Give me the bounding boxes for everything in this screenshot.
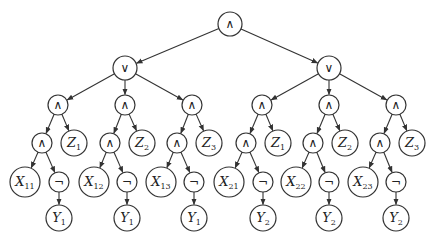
tree-node-n13: ¬ [184,172,204,192]
operator-label: ∧ [242,136,251,150]
tree-node-n21: ¬ [253,172,273,192]
operator-label: ∧ [106,136,115,150]
operator-label: ¬ [54,175,64,189]
edge-arrow [31,152,38,168]
edge-arrow [67,74,114,100]
tree-node-y23: Y2 [383,205,409,231]
edge-arrow [114,114,121,133]
tree-node-z22: Z2 [332,130,358,156]
edge-arrow [340,74,387,100]
tree-node-x11: X11 [10,167,40,197]
edge-arrow [271,74,318,100]
operator-label: ∧ [392,98,401,112]
tree-node-a23: ∧ [386,95,406,115]
tree-node-b13: ∧ [167,133,187,153]
edge-arrow [266,114,273,130]
tree-node-a22: ∧ [319,95,339,115]
tree-node-x13: X13 [146,167,176,197]
operator-label: ∧ [309,136,318,150]
tree-node-b12: ∧ [100,133,120,153]
tree-node-or2: ∨ [317,56,341,80]
operator-label: ∧ [121,98,130,112]
tree-node-y11: Y1 [46,205,72,231]
operator-label: ¬ [258,175,268,189]
tree-node-n11: ¬ [49,172,69,192]
edge-arrow [400,114,407,130]
operator-label: ∧ [376,136,385,150]
operator-label: ∨ [121,61,130,75]
edge-arrow [114,152,123,172]
tree-node-x12: X12 [79,167,109,197]
tree-node-a12: ∧ [115,95,135,115]
edge-arrow [181,114,188,133]
operator-label: ¬ [324,175,334,189]
tree-node-z23: Z3 [399,130,425,156]
edge-arrow [250,114,258,133]
edge-arrow [317,152,325,172]
edge-arrow [241,29,318,63]
edge-arrow [384,152,392,172]
tree-node-b21: ∧ [236,133,256,153]
tree-node-a21: ∧ [252,95,272,115]
operator-label: ∧ [188,98,197,112]
edge-arrow [136,74,183,100]
tree-node-or1: ∨ [113,56,137,80]
tree-node-n12: ¬ [117,172,137,192]
operator-label: ∧ [54,98,63,112]
tree-node-root: ∧ [218,12,242,36]
tree-node-y21: Y2 [250,205,276,231]
edge-arrow [167,152,173,167]
operator-label: ¬ [122,175,132,189]
operator-label: ∨ [325,61,334,75]
edge-arrow [196,114,203,131]
nodes-layer: ∧∨∨∧∧∧∧∧∧∧Z1∧Z2∧Z3∧Z1∧Z2∧Z3X11¬X12¬X13¬X… [10,12,425,231]
edge-arrow [250,152,259,172]
edge-arrow [384,114,392,133]
tree-node-x23: X23 [348,167,378,197]
tree-node-y22: Y2 [316,205,342,231]
edge-arrow [181,152,190,172]
tree-node-a11: ∧ [48,95,68,115]
edge-arrow [317,114,325,133]
edge-arrow [235,152,242,168]
edge-arrow [62,114,69,130]
tree-node-x21: X21 [214,167,244,197]
tree-node-a13: ∧ [182,95,202,115]
tree-node-z11: Z1 [61,130,87,156]
operator-label: ∧ [325,98,334,112]
edge-arrow [129,114,136,131]
tree-node-z21: Z1 [265,130,291,156]
edge-arrow [333,114,340,130]
tree-node-b23: ∧ [370,133,390,153]
tree-node-b11: ∧ [32,133,52,153]
operator-label: ¬ [189,175,199,189]
operator-label: ∧ [38,136,47,150]
formula-tree-diagram: ∧∨∨∧∧∧∧∧∧∧Z1∧Z2∧Z3∧Z1∧Z2∧Z3X11¬X12¬X13¬X… [0,0,436,244]
tree-node-z13: Z3 [196,130,222,156]
edge-arrow [100,152,106,167]
edge-arrow [302,152,309,168]
operator-label: ¬ [391,175,401,189]
tree-node-n23: ¬ [386,172,406,192]
tree-node-b22: ∧ [303,133,323,153]
edge-arrow [46,114,54,133]
tree-node-y13: Y1 [181,205,207,231]
tree-node-y12: Y1 [114,205,140,231]
edge-arrow [137,29,219,64]
tree-node-n22: ¬ [319,172,339,192]
edge-arrow [46,152,55,172]
edge-arrow [369,152,376,168]
operator-label: ∧ [226,17,235,31]
operator-label: ∧ [258,98,267,112]
tree-node-z12: Z2 [129,130,155,156]
operator-label: ∧ [173,136,182,150]
tree-node-x22: X22 [281,167,311,197]
